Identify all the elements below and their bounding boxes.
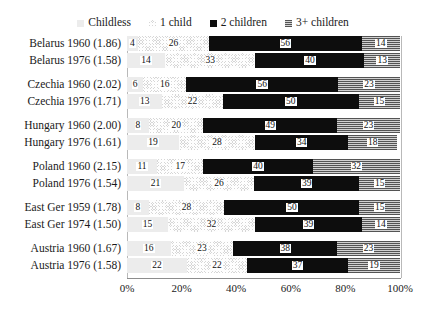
bar-segment-childless[interactable]: 11 (127, 159, 157, 174)
bar-segment-one-child[interactable]: 33 (165, 53, 255, 68)
segment-value-label: 11 (136, 162, 147, 172)
bar-segment-one-child[interactable]: 28 (149, 200, 225, 215)
bar-segment-childless[interactable]: 8 (127, 200, 149, 215)
bar-segment-two-children[interactable]: 34 (255, 135, 348, 150)
bar-segment-two-children[interactable]: 49 (203, 118, 337, 133)
group-spacer (0, 111, 426, 118)
group-spacer (0, 152, 426, 159)
bar-segment-one-child[interactable]: 26 (138, 36, 209, 51)
bar-segment-one-child[interactable]: 22 (187, 258, 247, 273)
x-axis-tick-labels: 0%20%40%60%80%100% (0, 281, 426, 299)
bar-segment-one-child[interactable]: 28 (179, 135, 255, 150)
bar-segment-three-plus-children[interactable]: 13 (364, 53, 399, 68)
segment-value-label: 39 (303, 220, 315, 230)
bar-segment-three-plus-children[interactable]: 15 (359, 200, 400, 215)
bar-segment-three-plus-children[interactable]: 23 (338, 77, 400, 92)
segment-value-label: 14 (375, 39, 387, 49)
stacked-bar: 13225015 (127, 94, 400, 109)
bar-segment-one-child[interactable]: 23 (171, 241, 234, 256)
bar-segment-two-children[interactable]: 38 (233, 241, 337, 256)
bar-segment-three-plus-children[interactable]: 18 (348, 135, 397, 150)
x-tick-label: 60% (261, 281, 321, 295)
bar-segment-childless[interactable]: 13 (127, 94, 162, 109)
bar-segment-three-plus-children[interactable]: 14 (362, 217, 400, 232)
segment-value-label: 49 (265, 121, 277, 131)
bar-segment-two-children[interactable]: 39 (254, 176, 359, 191)
group-spacer (0, 193, 426, 200)
bar-segment-two-children[interactable]: 56 (209, 36, 362, 51)
bar-segment-childless[interactable]: 22 (127, 258, 187, 273)
bar-segment-one-child[interactable]: 22 (162, 94, 222, 109)
segment-value-label: 37 (292, 261, 304, 271)
row-category-label: Czechia 1960 (2.02) (0, 77, 121, 92)
bar-segment-three-plus-children[interactable]: 23 (337, 241, 400, 256)
row-category-label: Poland 1976 (1.54) (0, 176, 121, 191)
segment-value-label: 40 (252, 162, 264, 172)
row-category-label: Belarus 1960 (1.86) (0, 36, 121, 51)
bar-segment-childless[interactable]: 6 (127, 77, 143, 92)
bar-segment-two-children[interactable]: 50 (223, 94, 360, 109)
segment-value-label: 23 (363, 80, 375, 90)
segment-value-label: 17 (174, 162, 186, 172)
bar-segment-three-plus-children[interactable]: 23 (337, 118, 400, 133)
bar-segment-three-plus-children[interactable]: 19 (348, 258, 400, 273)
segment-value-label: 15 (142, 220, 154, 230)
segment-value-label: 22 (211, 261, 223, 271)
stacked-bar: 6165623 (127, 77, 400, 92)
stacked-bar: 8285015 (127, 200, 400, 215)
segment-value-label: 50 (285, 97, 297, 107)
bar-segment-two-children[interactable]: 56 (186, 77, 337, 92)
bar-segment-one-child[interactable]: 32 (168, 217, 255, 232)
segment-value-label: 40 (304, 56, 316, 66)
segment-value-label: 18 (367, 138, 379, 148)
bar-segment-one-child[interactable]: 17 (157, 159, 203, 174)
legend-item-one[interactable]: 1 child (149, 17, 192, 29)
bar-segment-childless[interactable]: 16 (127, 241, 171, 256)
bar-segment-one-child[interactable]: 20 (149, 118, 204, 133)
legend-item-three[interactable]: 3+ children (285, 17, 349, 29)
stacked-bar: 11174032 (127, 159, 400, 174)
segment-value-label: 21 (150, 179, 162, 189)
segment-value-label: 22 (187, 97, 199, 107)
segment-value-label: 33 (205, 56, 217, 66)
bar-segment-three-plus-children[interactable]: 32 (313, 159, 400, 174)
segment-value-label: 26 (213, 179, 225, 189)
chart-row: Austria 1976 (1.58)22223719 (0, 258, 426, 273)
segment-value-label: 23 (363, 121, 375, 131)
legend-label: 1 child (160, 17, 192, 29)
chart-row: Czechia 1960 (2.02)6165623 (0, 77, 426, 92)
bar-segment-two-children[interactable]: 50 (224, 200, 359, 215)
bar-segment-one-child[interactable]: 16 (143, 77, 186, 92)
black-swatch (210, 20, 217, 27)
bar-segment-two-children[interactable]: 40 (255, 53, 364, 68)
x-axis-line (127, 278, 401, 279)
segment-value-label: 16 (159, 80, 171, 90)
bar-segment-one-child[interactable]: 26 (184, 176, 254, 191)
bar-segment-childless[interactable]: 15 (127, 217, 168, 232)
bar-segment-childless[interactable]: 14 (127, 53, 165, 68)
row-category-label: Czechia 1976 (1.71) (0, 94, 121, 109)
bar-segment-childless[interactable]: 4 (127, 36, 138, 51)
segment-value-label: 39 (301, 179, 313, 189)
bar-segment-childless[interactable]: 8 (127, 118, 149, 133)
bar-segment-childless[interactable]: 21 (127, 176, 184, 191)
stacked-bar: 19283418 (127, 135, 400, 150)
stacked-bar: 15323914 (127, 217, 400, 232)
legend-item-two[interactable]: 2 children (210, 17, 267, 29)
row-category-label: Hungary 1960 (2.00) (0, 118, 121, 133)
bar-segment-two-children[interactable]: 39 (255, 217, 361, 232)
legend-item-childless[interactable]: Childless (77, 17, 131, 29)
bar-segment-childless[interactable]: 19 (127, 135, 179, 150)
bar-segment-two-children[interactable]: 37 (247, 258, 348, 273)
segment-value-label: 56 (256, 80, 268, 90)
bar-segment-two-children[interactable]: 40 (203, 159, 312, 174)
bar-segment-three-plus-children[interactable]: 14 (362, 36, 400, 51)
stacked-bar: 21263915 (127, 176, 400, 191)
chart-legend: Childless1 child2 children3+ children (0, 12, 426, 34)
row-category-label: East Ger 1959 (1.78) (0, 200, 121, 215)
x-tick-label: 0% (97, 281, 157, 295)
bar-segment-three-plus-children[interactable]: 15 (359, 94, 400, 109)
chart-row: Belarus 1976 (1.58)14334013 (0, 53, 426, 68)
segment-value-label: 32 (351, 162, 363, 172)
bar-segment-three-plus-children[interactable]: 15 (359, 176, 400, 191)
